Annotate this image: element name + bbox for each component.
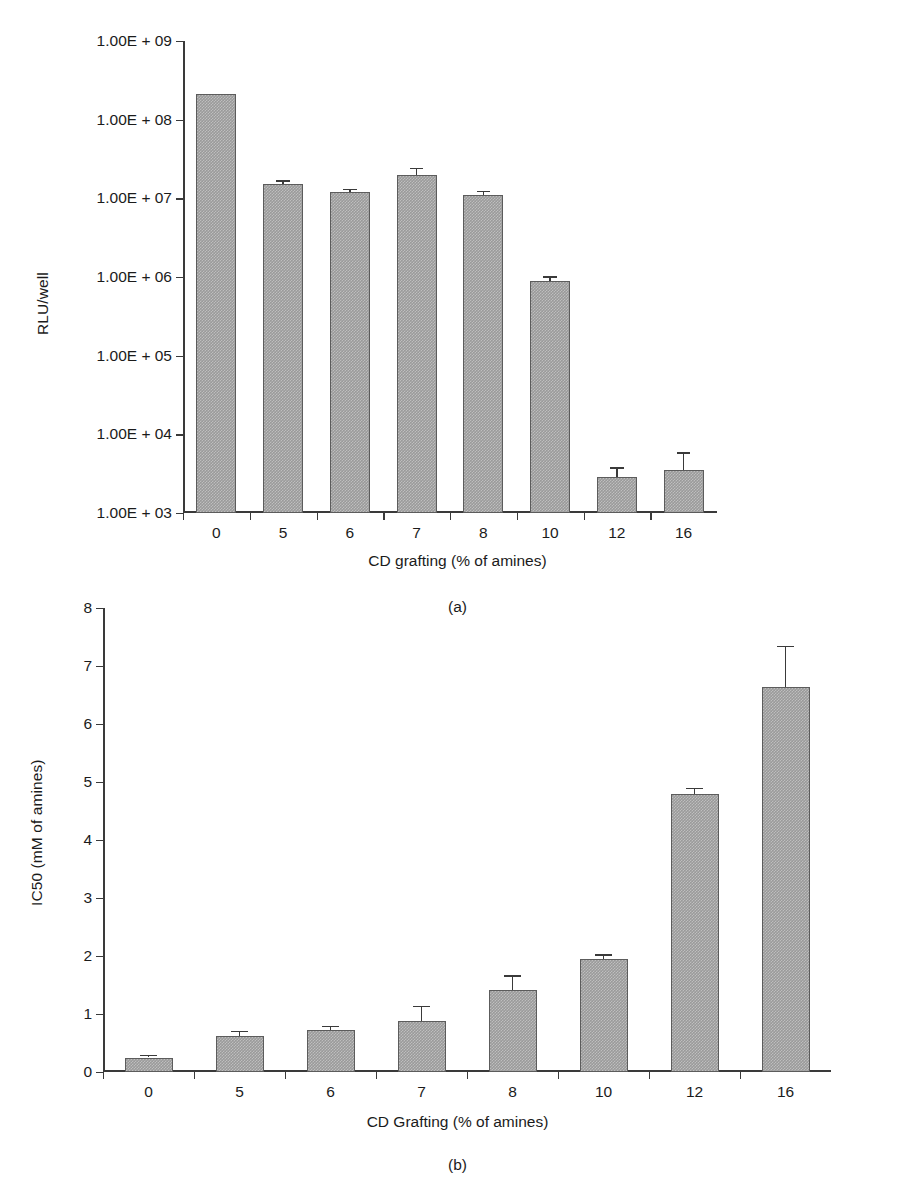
error-bar-cap [140,1055,156,1057]
bar [664,470,704,513]
y-tick-mark [96,724,103,725]
panel-a-x-axis-label: CD grafting (% of amines) [0,552,915,570]
x-tick-mark [376,1072,377,1079]
bar [263,184,303,513]
y-tick-mark [176,120,183,121]
panel-b-plot-area: 876543210 05678101216 [103,608,831,1072]
y-tick-label: 8 [83,599,92,617]
x-tick-mark [558,1072,559,1079]
x-tick-mark [467,1072,468,1079]
bar [397,175,437,513]
y-tick-label: 1.00E + 07 [97,189,172,207]
error-bar-cap [231,1031,247,1033]
bar [216,1036,264,1072]
bar [762,687,810,1072]
error-bar-cap [504,975,520,977]
error-bar-stem [683,452,685,470]
x-tick-mark [317,513,318,520]
y-tick-label: 0 [83,1063,92,1081]
bar [330,192,370,513]
x-tick-label: 12 [686,1083,703,1101]
x-tick-label: 16 [675,524,692,542]
error-bar-cap [686,788,702,790]
x-tick-label: 10 [542,524,559,542]
bar [307,1030,355,1072]
error-bar-stem [785,646,787,688]
x-tick-mark [450,513,451,520]
y-tick-mark [96,666,103,667]
y-tick-label: 1.00E + 05 [97,347,172,365]
y-tick-label: 1.00E + 08 [97,111,172,129]
x-tick-mark [740,1072,741,1079]
y-tick-label: 4 [83,831,92,849]
panel-b-y-axis-label: IC50 (mM of amines) [28,759,46,906]
x-tick-mark [285,1072,286,1079]
x-tick-label: 8 [479,524,488,542]
x-tick-mark [584,513,585,520]
figure-container: RLU/well 1.00E + 091.00E + 081.00E + 071… [0,0,915,1198]
x-tick-mark [183,513,184,520]
x-tick-label: 12 [608,524,625,542]
y-tick-mark [176,198,183,199]
y-tick-mark [96,956,103,957]
error-bar-cap [610,467,624,469]
chart-panel-b: IC50 (mM of amines) 876543210 0567810121… [0,576,915,1196]
bar [463,195,503,513]
y-tick-label: 1 [83,1005,92,1023]
error-bar-cap [276,180,290,182]
y-tick-mark [176,277,183,278]
error-bar-cap [413,1006,429,1008]
panel-b-x-axis-label: CD Grafting (% of amines) [0,1113,915,1131]
x-tick-label: 0 [212,524,221,542]
y-tick-mark [96,782,103,783]
x-tick-label: 16 [777,1083,794,1101]
x-tick-label: 7 [417,1083,426,1101]
error-bar-cap [595,954,611,956]
y-tick-mark [176,434,183,435]
y-tick-label: 6 [83,715,92,733]
bar [489,990,537,1072]
y-tick-mark [96,840,103,841]
y-tick-mark [96,1072,103,1073]
y-tick-label: 7 [83,657,92,675]
error-bar-cap [777,646,793,648]
bar [530,281,570,513]
bar [196,94,236,513]
panel-a-plot-area: 1.00E + 091.00E + 081.00E + 071.00E + 06… [183,41,717,513]
y-tick-label: 1.00E + 03 [97,504,172,522]
y-tick-mark [176,41,183,42]
x-tick-mark [103,1072,104,1079]
y-tick-mark [96,898,103,899]
y-tick-mark [176,513,183,514]
x-tick-mark [650,513,651,520]
error-bar-stem [421,1006,423,1021]
panel-a-y-axis-label: RLU/well [34,272,52,335]
bar [580,959,628,1072]
chart-panel-a: RLU/well 1.00E + 091.00E + 081.00E + 071… [0,0,915,600]
bar [398,1021,446,1072]
y-tick-label: 2 [83,947,92,965]
x-tick-mark [194,1072,195,1079]
y-tick-label: 5 [83,773,92,791]
bar [671,794,719,1072]
y-tick-label: 3 [83,889,92,907]
panel-b-caption: (b) [0,1156,915,1174]
x-tick-label: 6 [326,1083,335,1101]
x-tick-label: 5 [279,524,288,542]
bar [125,1058,173,1073]
bar [597,477,637,513]
error-bar-cap [677,452,691,454]
x-tick-label: 5 [235,1083,244,1101]
y-tick-mark [176,356,183,357]
page-footer-cutoff [0,1186,915,1198]
x-tick-mark [649,1072,650,1079]
x-tick-label: 7 [412,524,421,542]
y-tick-mark [96,1014,103,1015]
x-tick-mark [383,513,384,520]
x-tick-label: 6 [346,524,355,542]
x-tick-label: 0 [144,1083,153,1101]
panel-a-y-axis [183,41,185,513]
y-tick-mark [96,608,103,609]
x-tick-label: 10 [595,1083,612,1101]
error-bar-cap [543,276,557,278]
